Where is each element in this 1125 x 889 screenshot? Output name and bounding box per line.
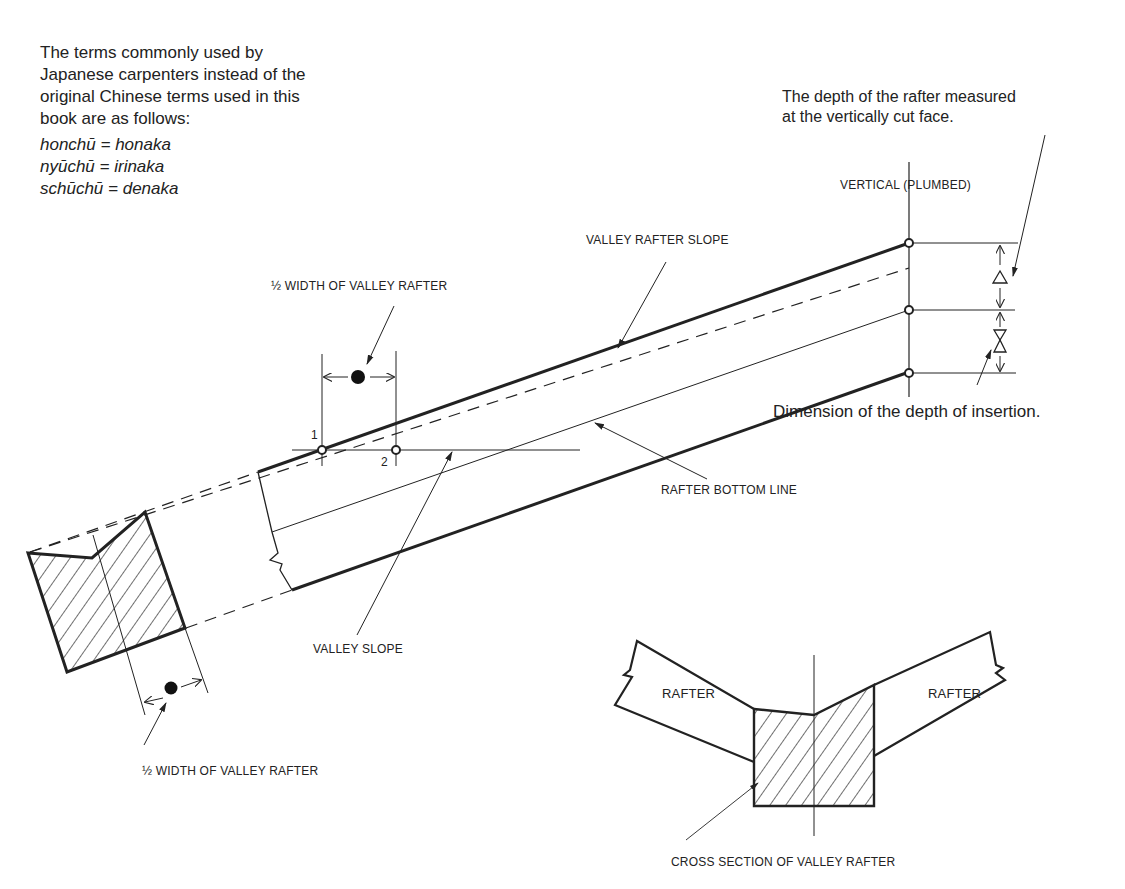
insertion-dimension bbox=[994, 313, 1006, 371]
hourglass-bottom-icon bbox=[994, 340, 1006, 352]
node-top bbox=[905, 239, 913, 247]
point-1-node bbox=[318, 446, 326, 454]
terms-note-paragraph: The terms commonly used by Japanese carp… bbox=[40, 42, 340, 130]
term-equivalent-honchu: honchū = honaka bbox=[40, 134, 178, 156]
left-cross-section bbox=[28, 512, 208, 745]
terms-note-line: Japanese carpenters instead of the bbox=[40, 64, 340, 86]
term-equivalents-list: honchū = honaka nyūchū = irinaka schūchū… bbox=[40, 134, 178, 200]
insertion-note-leader bbox=[977, 350, 991, 385]
cross-section-leader bbox=[686, 783, 758, 840]
projection-line-bottom bbox=[186, 590, 292, 628]
valley-rafter-cross-section bbox=[615, 632, 1005, 840]
hourglass-top-icon bbox=[994, 330, 1006, 340]
valley-rafter-slope-leader bbox=[618, 262, 666, 348]
depth-note-line: at the vertically cut face. bbox=[782, 107, 1016, 127]
terms-note-line: book are as follows: bbox=[40, 108, 340, 130]
valley-slope-leader bbox=[357, 452, 452, 635]
rafter-left-label: RAFTER bbox=[662, 686, 715, 701]
triangle-symbol-icon bbox=[993, 271, 1007, 283]
term-equivalent-schuchu: schūchū = denaka bbox=[40, 178, 178, 200]
point-2-node bbox=[392, 446, 400, 454]
cross-section-label: CROSS SECTION OF VALLEY RAFTER bbox=[671, 855, 895, 869]
half-width-bottom-label: ½ WIDTH OF VALLEY RAFTER bbox=[142, 764, 318, 778]
rafter-bottom-line-label: RAFTER BOTTOM LINE bbox=[661, 483, 797, 497]
depth-note: The depth of the rafter measured at the … bbox=[782, 87, 1016, 127]
half-width-top-label: ½ WIDTH OF VALLEY RAFTER bbox=[271, 279, 447, 293]
valley-rafter-top-edge bbox=[258, 243, 909, 472]
point-2-label: 2 bbox=[381, 455, 388, 469]
half-width-dot-icon bbox=[351, 370, 365, 384]
half-width-dot-bottom-icon bbox=[165, 682, 178, 695]
rafter-bottom-line-leader bbox=[595, 423, 707, 479]
point-1-label: 1 bbox=[311, 428, 318, 442]
rafter-right-label: RAFTER bbox=[928, 686, 981, 701]
depth-dimension bbox=[993, 246, 1007, 307]
node-bottom bbox=[905, 369, 913, 377]
terms-note-line: The terms commonly used by bbox=[40, 42, 340, 64]
depth-note-line: The depth of the rafter measured bbox=[782, 87, 1016, 107]
depth-note-leader bbox=[1013, 135, 1045, 276]
insertion-depth-note: Dimension of the depth of insertion. bbox=[773, 402, 1040, 422]
left-rafter-shape bbox=[615, 641, 754, 762]
vertical-plumbed-label: VERTICAL (PLUMBED) bbox=[840, 178, 971, 192]
valley-rafter-slope-label: VALLEY RAFTER SLOPE bbox=[586, 233, 729, 247]
node-middle bbox=[905, 306, 913, 314]
terms-note-line: original Chinese terms used in this bbox=[40, 86, 340, 108]
valley-slope-label: VALLEY SLOPE bbox=[313, 642, 403, 656]
term-equivalent-nyuchu: nyūchū = irinaka bbox=[40, 156, 178, 178]
half-width-dimension-top bbox=[292, 306, 580, 466]
